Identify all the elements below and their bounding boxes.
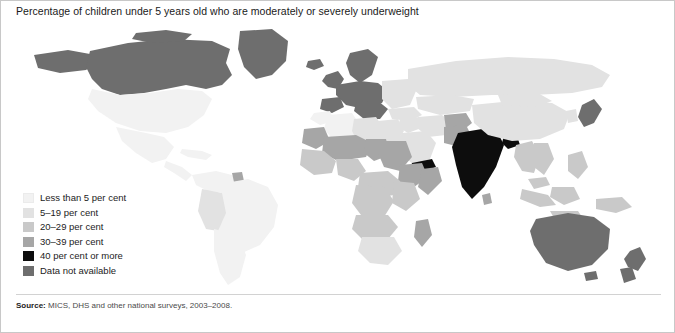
region-iceland: [306, 59, 324, 70]
region-philippines: [568, 151, 588, 179]
region-papua-new-guinea: [596, 197, 632, 213]
region-vietnam-laos: [534, 143, 554, 175]
region-australia: [530, 213, 610, 271]
legend-swatch-40-or-more: [23, 251, 34, 261]
region-korea: [566, 109, 578, 123]
region-tasmania: [584, 271, 598, 281]
region-italy-balkans: [354, 101, 388, 119]
legend-item-less-than-5: Less than 5 per cent: [23, 191, 193, 206]
region-canada: [86, 39, 232, 95]
page-title: Percentage of children under 5 years old…: [16, 5, 419, 17]
source-text: MICS, DHS and other national surveys, 20…: [48, 301, 232, 310]
legend-swatch-data-not-available: [23, 266, 34, 276]
region-india: [452, 129, 504, 199]
legend-swatch-5-19: [23, 208, 34, 218]
region-scandinavia: [346, 49, 378, 83]
legend-swatch-less-than-5: [23, 193, 34, 203]
region-japan: [578, 99, 602, 127]
legend-swatch-30-39: [23, 237, 34, 247]
region-somalia: [418, 167, 442, 195]
region-central-america: [164, 161, 192, 181]
region-new-zealand-south: [620, 267, 636, 283]
region-malaysia: [528, 177, 550, 189]
region-madagascar: [414, 219, 432, 247]
legend-label-less-than-5: Less than 5 per cent: [40, 193, 126, 203]
legend-label-data-not-available: Data not available: [40, 266, 116, 276]
region-kazakhstan: [416, 95, 474, 115]
region-new-zealand: [624, 247, 646, 271]
region-united-states: [88, 89, 212, 133]
region-sri-lanka: [482, 193, 492, 205]
legend-label-20-29: 20–29 per cent: [40, 222, 103, 232]
region-indonesia-sumatra: [520, 189, 556, 207]
legend-item-20-29: 20–29 per cent: [23, 220, 193, 235]
source-note: Source: MICS, DHS and other national sur…: [16, 301, 232, 310]
legend-item-30-39: 30–39 per cent: [23, 235, 193, 250]
region-alaska: [34, 50, 96, 73]
legend-item-40-or-more: 40 per cent or more: [23, 249, 193, 264]
figure-panel: Percentage of children under 5 years old…: [0, 0, 675, 333]
legend-label-5-19: 5–19 per cent: [40, 208, 98, 218]
legend-label-40-or-more: 40 per cent or more: [40, 251, 123, 261]
legend-swatch-20-29: [23, 222, 34, 232]
legend-item-5-19: 5–19 per cent: [23, 206, 193, 221]
region-caribbean: [180, 149, 212, 160]
region-greenland: [238, 29, 288, 79]
map-legend: Less than 5 per cent 5–19 per cent 20–29…: [23, 191, 193, 278]
region-russia: [408, 57, 610, 97]
legend-item-data-not-available: Data not available: [23, 264, 193, 279]
legend-label-30-39: 30–39 per cent: [40, 237, 103, 247]
region-southern-africa: [358, 237, 402, 265]
region-iberia: [320, 97, 344, 113]
source-divider: [16, 294, 661, 295]
region-canada-islands: [132, 30, 192, 43]
source-label: Source:: [16, 301, 46, 310]
region-indonesia-borneo: [550, 187, 580, 205]
